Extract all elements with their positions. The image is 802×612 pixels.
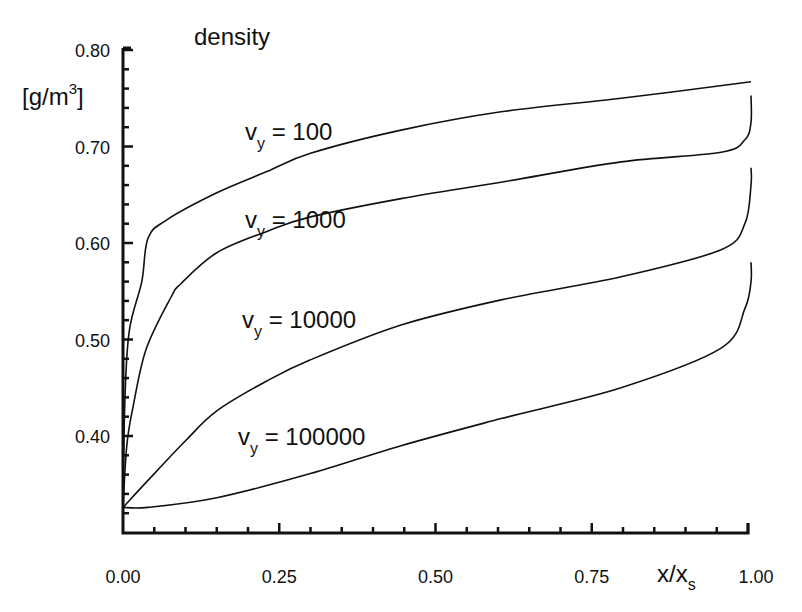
y-axis-label-main: [g/m xyxy=(22,83,69,110)
series-label-0: vy = 100 xyxy=(245,118,332,152)
y-tick-label: 0.50 xyxy=(75,331,110,351)
series-curve-3 xyxy=(123,262,751,508)
x-tick-label: 0.50 xyxy=(418,567,453,587)
chart-title: density xyxy=(194,23,270,50)
data-curves xyxy=(123,82,751,508)
y-tick-label: 0.80 xyxy=(75,41,110,61)
x-axis-label: x/xs xyxy=(657,560,696,593)
axes-frame xyxy=(123,48,748,533)
series-label-2: vy = 10000 xyxy=(242,306,356,340)
series-label-1: vy = 1000 xyxy=(245,206,346,240)
series-curve-2 xyxy=(123,168,751,508)
y-tick-label: 0.40 xyxy=(75,427,110,447)
y-tick-label: 0.70 xyxy=(75,138,110,158)
x-tick-label: 1.00 xyxy=(738,567,773,587)
series-labels: vy = 100vy = 1000vy = 10000vy = 100000 xyxy=(238,118,365,457)
density-chart: 0.400.500.600.700.80 0.000.250.500.751.0… xyxy=(0,0,802,612)
series-label-3: vy = 100000 xyxy=(238,423,365,457)
y-tick-label: 0.60 xyxy=(75,234,110,254)
series-curve-0 xyxy=(123,82,751,508)
x-tick-label: 0.25 xyxy=(262,567,297,587)
x-axis-label-main: x/x xyxy=(657,560,688,587)
x-tick-label: 0.00 xyxy=(105,567,140,587)
y-axis-label-sup: 3 xyxy=(69,80,77,97)
series-curve-1 xyxy=(123,95,751,507)
y-axis-label-close: ] xyxy=(77,83,84,110)
x-axis-label-sub: s xyxy=(688,576,696,593)
y-axis-label: [g/m3] xyxy=(22,80,84,110)
x-tick-label: 0.75 xyxy=(574,567,609,587)
